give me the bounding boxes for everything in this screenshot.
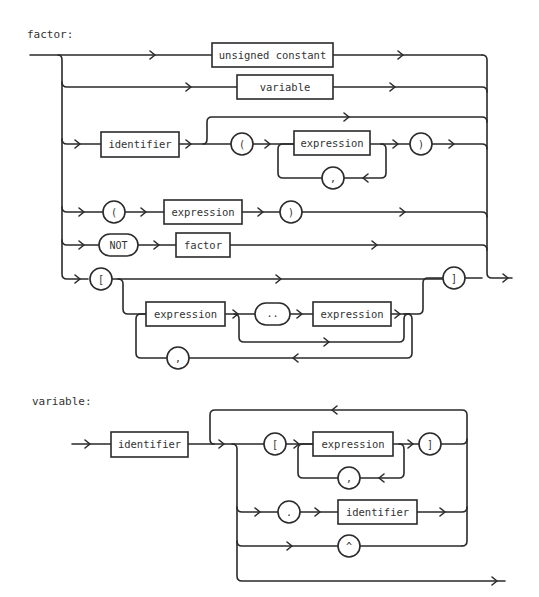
row-set: [ expression .. expression , ] bbox=[75, 267, 482, 369]
label: ^ bbox=[346, 541, 352, 552]
factor-diagram: factor: unsigned constant variable bbox=[27, 28, 512, 369]
label: NOT bbox=[109, 240, 127, 251]
variable-title: variable: bbox=[32, 395, 92, 408]
row-unsigned-constant: unsigned constant bbox=[58, 43, 482, 67]
label: , bbox=[330, 173, 336, 184]
row-variable: variable bbox=[62, 75, 487, 99]
label: , bbox=[175, 353, 181, 364]
row-pointer: ^ bbox=[237, 535, 462, 557]
label: identifier bbox=[346, 506, 409, 518]
label: ] bbox=[427, 439, 433, 450]
row-function-call: identifier ( expression , ) bbox=[62, 113, 487, 189]
label: [ bbox=[272, 439, 278, 450]
label: ( bbox=[111, 207, 117, 218]
label: ) bbox=[418, 139, 424, 150]
label: identifier bbox=[108, 138, 171, 150]
label: variable bbox=[260, 81, 311, 93]
label: .. bbox=[266, 308, 278, 319]
label: unsigned constant bbox=[219, 49, 326, 61]
syntax-diagram: factor: unsigned constant variable bbox=[0, 0, 539, 597]
label: factor bbox=[184, 239, 222, 251]
label: identifier bbox=[118, 438, 181, 450]
label: expression bbox=[321, 438, 384, 450]
label: expression bbox=[171, 206, 234, 218]
row-field: . identifier bbox=[237, 500, 467, 524]
label: ( bbox=[239, 139, 245, 150]
label: expression bbox=[320, 308, 383, 320]
row-parenthesized: ( expression ) bbox=[62, 200, 487, 224]
label: [ bbox=[98, 274, 104, 285]
variable-diagram: variable: identifier [ expression , ] bbox=[32, 395, 505, 585]
label: ) bbox=[288, 207, 294, 218]
row-not-factor: NOT factor bbox=[62, 233, 487, 257]
factor-title: factor: bbox=[27, 28, 73, 41]
label: , bbox=[346, 473, 352, 484]
row-index: [ expression , ] bbox=[264, 432, 467, 489]
label: ] bbox=[451, 273, 457, 284]
label: expression bbox=[300, 137, 363, 149]
label: expression bbox=[154, 308, 217, 320]
label: . bbox=[286, 507, 292, 518]
